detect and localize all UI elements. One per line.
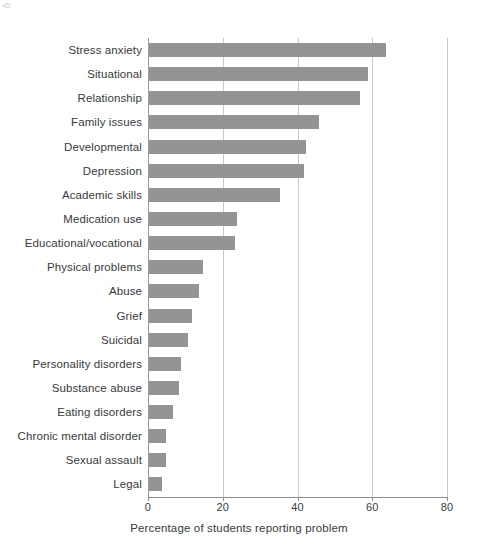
category-label: Academic skills [0, 188, 142, 202]
chart-row: Eating disorders [0, 400, 478, 424]
category-label: Situational [0, 67, 142, 81]
bar [149, 405, 173, 419]
category-label: Family issues [0, 115, 142, 129]
chart-row: Substance abuse [0, 376, 478, 400]
bar [149, 357, 181, 371]
category-label: Sexual assault [0, 453, 142, 467]
category-label: Suicidal [0, 333, 142, 347]
category-label: Abuse [0, 284, 142, 298]
chart-row: Stress anxiety [0, 38, 478, 62]
bar [149, 333, 188, 347]
chart-row: Depression [0, 159, 478, 183]
bar [149, 260, 203, 274]
category-label: Relationship [0, 91, 142, 105]
category-label: Stress anxiety [0, 43, 142, 57]
bar [149, 236, 235, 250]
bar [149, 381, 179, 395]
chart-row: Educational/vocational [0, 231, 478, 255]
chart-row: Family issues [0, 110, 478, 134]
x-axis-label: Percentage of students reporting problem [0, 521, 478, 535]
chart-row: Legal [0, 472, 478, 496]
category-label: Physical problems [0, 260, 142, 274]
category-label: Substance abuse [0, 381, 142, 395]
category-label: Depression [0, 164, 142, 178]
category-label: Medication use [0, 212, 142, 226]
chart-row: Physical problems [0, 255, 478, 279]
category-label: Personality disorders [0, 357, 142, 371]
x-tick-label: 80 [427, 501, 467, 514]
chart-row: Personality disorders [0, 352, 478, 376]
category-label: Eating disorders [0, 405, 142, 419]
bar [149, 188, 280, 202]
bar [149, 477, 162, 491]
x-tick-label: 60 [352, 501, 392, 514]
bar [149, 140, 306, 154]
chart-row: Relationship [0, 86, 478, 110]
category-label: Developmental [0, 140, 142, 154]
x-tick-label: 20 [203, 501, 243, 514]
chart-row: Sexual assault [0, 448, 478, 472]
chart-row: Suicidal [0, 328, 478, 352]
chart-row: Developmental [0, 135, 478, 159]
bar [149, 115, 319, 129]
category-label: Educational/vocational [0, 236, 142, 250]
page-number-artifact: 45 [2, 1, 16, 10]
x-tick-label: 0 [128, 501, 168, 514]
bar [149, 43, 386, 57]
bar [149, 429, 166, 443]
chart-row: Academic skills [0, 183, 478, 207]
chart-row: Abuse [0, 279, 478, 303]
bar [149, 67, 368, 81]
bar [149, 309, 192, 323]
chart-row: Medication use [0, 207, 478, 231]
bar [149, 212, 237, 226]
chart-row: Situational [0, 62, 478, 86]
bar [149, 453, 166, 467]
chart-row: Chronic mental disorder [0, 424, 478, 448]
bar-chart-figure: 45 Stress anxietySituationalRelationship… [0, 0, 478, 557]
category-label: Chronic mental disorder [0, 429, 142, 443]
bar [149, 164, 304, 178]
x-tick-label: 40 [278, 501, 318, 514]
category-label: Legal [0, 477, 142, 491]
bar [149, 91, 360, 105]
bar [149, 284, 199, 298]
chart-row: Grief [0, 303, 478, 327]
category-label: Grief [0, 309, 142, 323]
